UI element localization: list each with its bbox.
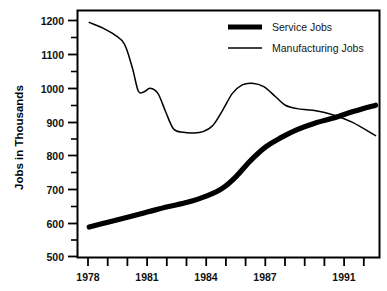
x-tick-label-1978: 1978 [76, 271, 100, 283]
y-tick-label-900: 900 [46, 117, 64, 129]
chart-canvas: 1200 1100 1000 900 800 700 600 500 Jobs … [0, 0, 387, 291]
legend-label-manufacturing-jobs: Manufacturing Jobs [272, 42, 364, 54]
y-tick-label-1100: 1100 [41, 49, 64, 61]
y-tick-label-700: 700 [46, 184, 64, 196]
legend-label-service-jobs: Service Jobs [272, 21, 332, 33]
x-tick-label-1981: 1981 [135, 271, 159, 283]
x-tick-label-1984: 1984 [194, 271, 218, 283]
y-tick-label-1000: 1000 [41, 83, 65, 95]
y-tick-label-1200: 1200 [41, 15, 65, 27]
y-axis-title: Jobs in Thousands [13, 85, 25, 190]
y-tick-label-600: 600 [46, 218, 64, 230]
x-tick-label-1987: 1987 [253, 271, 277, 283]
jobs-line-chart: 1200 1100 1000 900 800 700 600 500 Jobs … [0, 0, 387, 291]
y-tick-label-800: 800 [46, 150, 64, 162]
y-tick-label-500: 500 [46, 251, 64, 263]
x-tick-label-1991: 1991 [332, 271, 356, 283]
x-axis-ticks [88, 258, 364, 266]
